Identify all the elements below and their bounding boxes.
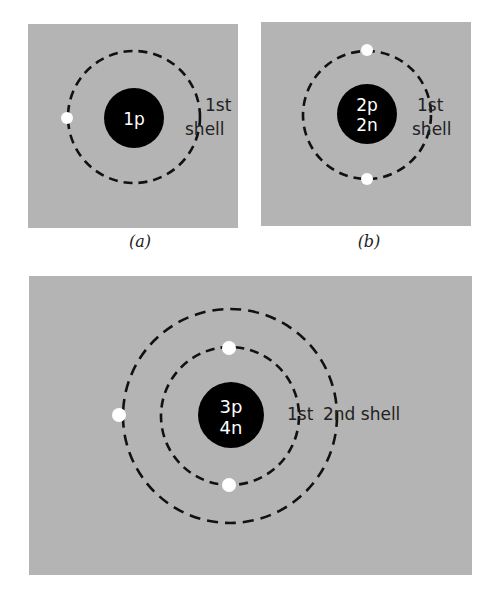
nucleus-label: 4n	[220, 417, 243, 438]
electron	[112, 408, 126, 422]
electron	[222, 478, 236, 492]
nucleus-label: 3p	[220, 396, 243, 417]
electron	[222, 341, 236, 355]
shell-1-label: 1st	[287, 404, 314, 424]
atom-diagram-c: 3p 4n 1st 2nd shell	[0, 0, 492, 606]
shell-2-label: 2nd shell	[323, 404, 400, 424]
